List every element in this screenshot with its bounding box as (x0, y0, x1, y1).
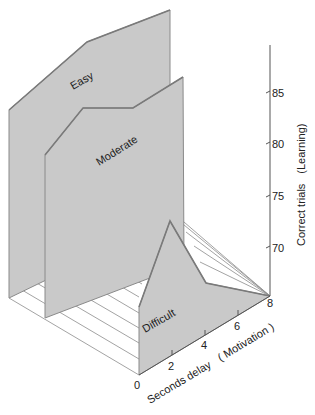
x-tick-6: 6 (234, 320, 240, 332)
x-tick-2: 2 (168, 360, 174, 372)
chart-canvas: Easy Moderate Difficult 85 80 75 70 Corr… (0, 0, 315, 415)
x-tick-0: 0 (134, 379, 140, 391)
y-tick-70: 70 (272, 242, 284, 254)
y-tick-80: 80 (272, 138, 284, 150)
y-tick-75: 75 (272, 190, 284, 202)
x-tick-8: 8 (267, 297, 273, 309)
x-tick-4: 4 (201, 339, 207, 351)
y-tick-85: 85 (272, 87, 284, 99)
y-axis-title: Correct trials(Learning) (295, 124, 307, 246)
